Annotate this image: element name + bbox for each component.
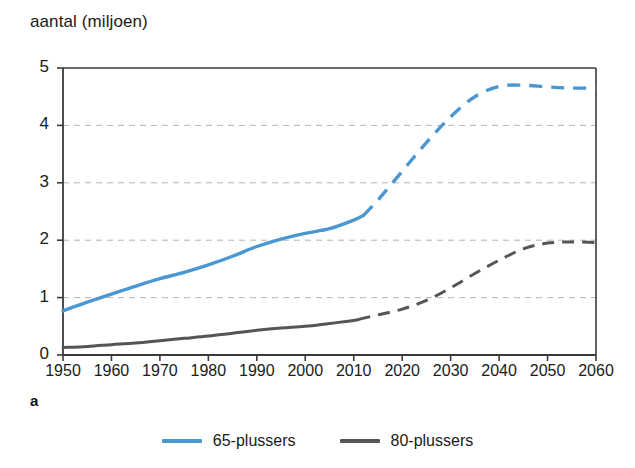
series-lines xyxy=(63,85,596,348)
y-tick-label: 2 xyxy=(23,229,49,249)
line-80-plussers-projected xyxy=(359,242,596,319)
axis-frame xyxy=(63,68,596,355)
legend-color-swatch-80-plussers xyxy=(340,439,380,443)
legend-label-65-plussers: 65-plussers xyxy=(213,432,296,450)
legend-item-80-plussers: 80-plussers xyxy=(340,432,474,450)
legend-item-65-plussers: 65-plussers xyxy=(162,432,296,450)
y-tick-label: 3 xyxy=(23,172,49,192)
y-tick-label: 5 xyxy=(23,57,49,77)
line-65-plussers-observed xyxy=(63,216,363,311)
chart-legend: 65-plussers 80-plussers xyxy=(0,432,635,450)
y-tick-label: 0 xyxy=(23,344,49,364)
line-65-plussers-projected xyxy=(363,85,596,215)
plot-canvas xyxy=(0,0,635,468)
x-tick-label: 2060 xyxy=(566,362,626,380)
legend-label-80-plussers: 80-plussers xyxy=(391,432,474,450)
legend-color-swatch-65-plussers xyxy=(162,439,202,443)
gridlines xyxy=(63,125,596,297)
line-80-plussers-observed xyxy=(63,319,359,347)
chart-figure: aantal (miljoen) 012345 1950196019701980… xyxy=(0,0,635,468)
panel-label: a xyxy=(30,392,38,409)
y-tick-label: 1 xyxy=(23,287,49,307)
y-tick-label: 4 xyxy=(23,114,49,134)
